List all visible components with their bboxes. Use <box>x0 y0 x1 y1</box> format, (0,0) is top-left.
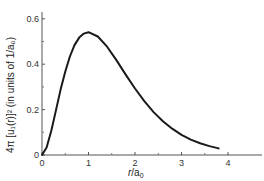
y-tick-label: 0.6 <box>26 14 39 24</box>
chart: 00.20.40.6 01234 r/a0 4π [u₁(r)]² (in un… <box>0 0 264 181</box>
y-tick-label: 0.2 <box>26 105 39 115</box>
y-axis: 00.20.40.6 <box>26 12 45 160</box>
x-axis: 01234 <box>39 152 262 168</box>
data-line <box>42 32 219 155</box>
x-tick-label: 4 <box>225 158 230 168</box>
x-tick-label: 1 <box>86 158 91 168</box>
y-axis-label: 4π [u₁(r)]² (in units of 1/a₀) <box>5 37 16 153</box>
x-tick-label: 3 <box>179 158 184 168</box>
x-axis-label: r/a0 <box>128 167 144 179</box>
y-tick-label: 0.4 <box>26 59 39 69</box>
x-tick-label: 0 <box>39 158 44 168</box>
y-tick-label: 0 <box>34 150 39 160</box>
